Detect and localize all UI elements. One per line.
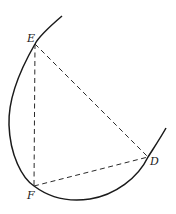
diagram-canvas: E F D	[0, 0, 176, 214]
segment-ed	[35, 44, 148, 157]
segment-ef	[34, 44, 35, 186]
segment-fd	[34, 157, 148, 186]
point-label-e: E	[26, 32, 35, 45]
point-label-d: D	[149, 155, 159, 168]
point-label-f: F	[26, 189, 35, 202]
